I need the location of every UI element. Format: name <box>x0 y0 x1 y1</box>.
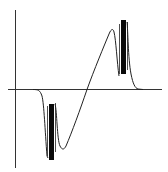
negative-burst-band <box>49 104 54 160</box>
positive-oscillation-burst <box>120 20 128 74</box>
diagram-canvas <box>0 0 168 172</box>
positive-burst-band <box>121 20 126 74</box>
negative-oscillation-burst <box>48 103 56 160</box>
waveform-diagram <box>0 0 168 172</box>
